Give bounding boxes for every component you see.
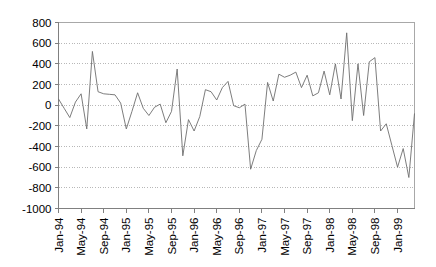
line-chart: 8006004002000-200-400-600-800-1000 Jan-9… bbox=[0, 0, 436, 267]
y-tick-label: -1000 bbox=[22, 203, 51, 215]
y-tick-label: 200 bbox=[32, 79, 51, 91]
x-tick-label: Sep-95 bbox=[166, 218, 178, 255]
y-tick-label: 400 bbox=[32, 58, 51, 70]
y-tick-label: -800 bbox=[28, 182, 51, 194]
gridlines bbox=[59, 43, 415, 208]
x-tick-label: May-96 bbox=[211, 218, 223, 256]
plot-frame bbox=[59, 23, 415, 209]
x-tick-label: Jan-97 bbox=[256, 218, 268, 253]
x-tick-label: Jan-96 bbox=[188, 218, 200, 253]
y-axis-ticks bbox=[55, 23, 59, 209]
x-axis-tick-labels: Jan-94May-94Sep-94Jan-95May-95Sep-95Jan-… bbox=[53, 217, 404, 256]
chart-container: 8006004002000-200-400-600-800-1000 Jan-9… bbox=[0, 0, 436, 267]
x-tick-label: Sep-97 bbox=[301, 218, 313, 255]
x-tick-label: Sep-98 bbox=[369, 218, 381, 255]
x-tick-label: Jan-98 bbox=[324, 218, 336, 253]
y-tick-label: -600 bbox=[28, 161, 51, 173]
x-tick-label: May-95 bbox=[143, 218, 155, 256]
x-tick-label: May-98 bbox=[346, 218, 358, 256]
x-tick-label: Sep-94 bbox=[98, 217, 110, 255]
x-tick-label: Jan-95 bbox=[120, 218, 132, 253]
x-axis-ticks bbox=[59, 209, 398, 213]
y-tick-label: -200 bbox=[28, 120, 51, 132]
x-tick-label: May-94 bbox=[75, 217, 87, 256]
y-tick-label: -400 bbox=[28, 141, 51, 153]
y-tick-label: 600 bbox=[32, 37, 51, 49]
y-tick-label: 800 bbox=[32, 17, 51, 29]
x-tick-label: May-97 bbox=[279, 218, 291, 256]
x-tick-label: Sep-96 bbox=[233, 218, 245, 255]
y-tick-label: 0 bbox=[45, 99, 51, 111]
x-tick-label: Jan-94 bbox=[53, 217, 65, 253]
x-tick-label: Jan-99 bbox=[392, 218, 404, 253]
y-axis-tick-labels: 8006004002000-200-400-600-800-1000 bbox=[22, 17, 51, 215]
